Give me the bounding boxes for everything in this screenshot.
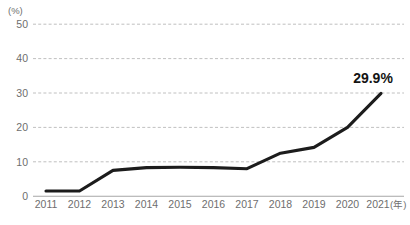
y-tick-label-20: 20 xyxy=(16,121,28,133)
y-tick-label-30: 30 xyxy=(16,87,28,99)
line-chart-figure: (%) 50 40 30 20 10 0 2011 2012 2013 2014 xyxy=(0,0,410,225)
x-tick-label-2015: 2015 xyxy=(168,198,192,210)
x-tick-label-2019: 2019 xyxy=(302,198,326,210)
y-tick-label-50: 50 xyxy=(16,18,28,30)
chart-canvas: (%) 50 40 30 20 10 0 2011 2012 2013 2014 xyxy=(0,0,410,225)
data-series-line xyxy=(46,93,381,191)
y-axis-tick-labels: 50 40 30 20 10 0 xyxy=(16,18,28,202)
x-tick-label-2020: 2020 xyxy=(336,198,360,210)
x-tick-label-2012: 2012 xyxy=(68,198,92,210)
x-tick-label-2014: 2014 xyxy=(135,198,159,210)
value-annotation-2021: 29.9% xyxy=(353,70,393,86)
x-tick-label-2016: 2016 xyxy=(202,198,226,210)
y-tick-label-40: 40 xyxy=(16,52,28,64)
x-tick-label-2011: 2011 xyxy=(35,198,58,210)
x-tick-label-2013: 2013 xyxy=(101,198,125,210)
y-tick-label-10: 10 xyxy=(16,156,28,168)
x-tick-label-2017: 2017 xyxy=(235,198,259,210)
x-axis-tick-labels: 2011 2012 2013 2014 2015 2016 2017 2018 … xyxy=(35,198,407,210)
x-tick-label-2021: 2021 xyxy=(366,198,390,210)
y-tick-label-0: 0 xyxy=(22,190,28,202)
footnote-text xyxy=(8,220,308,225)
x-axis-unit-label: (年) xyxy=(390,199,406,210)
y-axis-unit-label: (%) xyxy=(8,5,23,16)
gridline-group xyxy=(33,24,404,162)
x-tick-label-2018: 2018 xyxy=(269,198,293,210)
